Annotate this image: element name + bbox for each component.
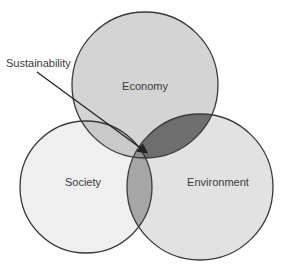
sustainability-label: Sustainability	[6, 57, 71, 69]
society-label: Society	[65, 176, 102, 188]
venn-diagram: Economy Society Environment Sustainabili…	[0, 0, 281, 267]
environment-label: Environment	[187, 176, 249, 188]
economy-label: Economy	[122, 80, 168, 92]
